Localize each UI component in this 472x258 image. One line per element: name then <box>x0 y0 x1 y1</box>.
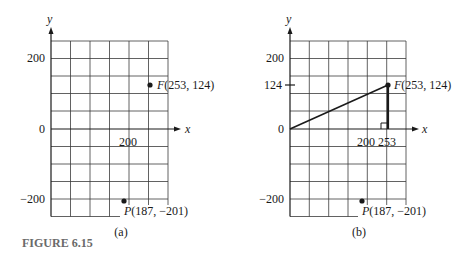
panel-b-point-f-label: F(253, 124) <box>393 78 451 92</box>
panel-a-point-f <box>147 82 152 87</box>
panel-b-xtick-200: 200 <box>357 135 375 149</box>
panel-b-xtick-253: 253 <box>378 135 396 149</box>
panel-b-y-label: y <box>285 12 292 26</box>
panel-b-x-label: x <box>421 122 428 136</box>
figure-label: FIGURE 6.15 <box>22 236 93 250</box>
panel-a-point-p-label: P(187, −201) <box>123 204 188 218</box>
panel-a-xtick-200: 200 <box>119 135 137 149</box>
panel-b-ytick-124: 124 <box>264 78 282 92</box>
panel-a-ytick-neg200: −200 <box>20 192 45 206</box>
panel-b-right-angle-icon <box>381 123 387 129</box>
figure-canvas: y x 200 0 −200 200 F(253, 124) P(187, −2… <box>0 0 472 258</box>
panel-b-point-p <box>359 198 364 203</box>
panel-a-y-label: y <box>46 12 53 26</box>
panel-a-x-arrow-icon <box>174 127 181 132</box>
panel-b-ytick-200: 200 <box>266 51 284 65</box>
panel-b-y-arrow-icon <box>288 27 293 34</box>
panel-b-caption: (b) <box>352 225 366 239</box>
panel-a-ytick-0: 0 <box>39 122 45 136</box>
panel-a-ytick-200: 200 <box>27 51 45 65</box>
panel-b-x-arrow-icon <box>412 127 419 132</box>
panel-b-ytick-neg200: −200 <box>259 192 284 206</box>
panel-a-caption: (a) <box>114 225 127 239</box>
panel-b-point-p-label: P(187, −201) <box>361 204 426 218</box>
panel-b-hypotenuse-line <box>290 85 388 129</box>
panel-a: y x 200 0 −200 200 F(253, 124) P(187, −2… <box>20 12 214 239</box>
panel-b-point-f <box>385 82 390 87</box>
panel-a-x-label: x <box>184 122 191 136</box>
panel-b: y x 200 124 0 −200 200 253 F(253, 124) P… <box>259 12 451 239</box>
panel-a-point-f-label: F(253, 124) <box>156 78 214 92</box>
panel-a-point-p <box>121 198 126 203</box>
panel-a-y-arrow-icon <box>49 27 54 34</box>
panel-b-ytick-0: 0 <box>278 122 284 136</box>
